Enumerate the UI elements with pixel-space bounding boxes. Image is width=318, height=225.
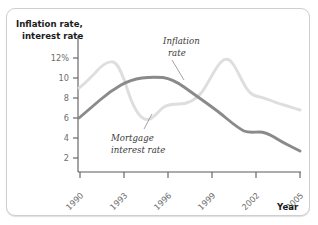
chart-figure: 12% 10 8 6 4 2 1990 1993 1996 1999 2002 … <box>0 0 318 225</box>
x-tick-label-1990: 1990 <box>64 190 86 212</box>
y-tick-label-2: 2 <box>64 153 69 163</box>
y-tick-label-8: 8 <box>64 93 69 103</box>
inflation-annotation-line2: rate <box>168 48 186 58</box>
y-tick-label-12: 12% <box>51 53 69 63</box>
x-tick-label-1993: 1993 <box>108 190 130 212</box>
mortgage-annotation-line2: interest rate <box>111 145 165 155</box>
y-tick-label-6: 6 <box>64 113 69 123</box>
x-tick-label-2002: 2002 <box>240 190 262 212</box>
y-axis-title-line1: Inflation rate, <box>16 19 83 29</box>
x-axis-title: Year <box>276 202 299 212</box>
y-tick-label-10: 10 <box>59 73 69 83</box>
inflation-annotation-line1: Inflation <box>162 36 200 46</box>
x-tick-label-1999: 1999 <box>196 190 218 212</box>
mortgage-annotation-line1: Mortgage <box>110 133 154 143</box>
inflation-leader-line <box>172 60 184 80</box>
y-tick-label-4: 4 <box>64 133 69 143</box>
x-tick-label-1996: 1996 <box>152 190 174 212</box>
mortgage-leader-line <box>144 114 152 129</box>
y-axis-title-line2: interest rate <box>22 31 83 41</box>
line-chart-svg: 12% 10 8 6 4 2 1990 1993 1996 1999 2002 … <box>0 0 318 225</box>
